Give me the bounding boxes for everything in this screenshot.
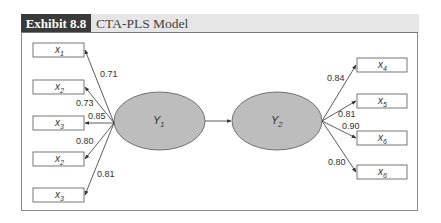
loading-value: 0.84 <box>327 73 345 83</box>
cta-pls-diagram: Y1 Y2 x1 x2 x3 x2 x3 x4 x5 x6 x6 0.71 0.… <box>0 0 441 223</box>
right-indicators: x4 x5 x6 x6 <box>357 58 407 179</box>
loading-value: 0.71 <box>100 69 118 79</box>
left-indicators: x1 x2 x3 x2 x3 <box>33 43 84 202</box>
loading-value: 0.80 <box>76 136 94 146</box>
loading-value: 0.80 <box>328 157 346 167</box>
loading-value: 0.73 <box>76 98 94 108</box>
loading-value: 0.85 <box>88 111 106 121</box>
loading-value: 0.81 <box>97 169 115 179</box>
loading-value: 0.90 <box>342 121 360 131</box>
loading-value: 0.81 <box>338 109 356 119</box>
loading-line-x3b <box>85 123 114 195</box>
